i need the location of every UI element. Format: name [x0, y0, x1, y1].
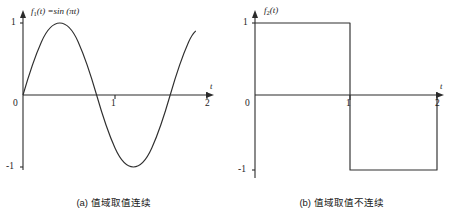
panel-a-f-subscript: 1	[34, 10, 37, 17]
panel-b-discontinuous: f2(t) 1 -1 0 1 2 t (b) 值域取值不连续	[228, 0, 455, 212]
panel-a-xlabel-2: 2	[205, 99, 210, 109]
panel-a-continuous: f1(t) =sin (πt) 1 -1 0 1 2 t (a) 值域取值连续	[0, 0, 227, 212]
panel-a-y-axis-arrow	[20, 10, 26, 18]
panel-b-origin-label: 0	[245, 99, 250, 109]
panel-b-xlabel-2: 2	[435, 99, 440, 109]
panel-b-plot	[228, 0, 455, 190]
figure-container: f1(t) =sin (πt) 1 -1 0 1 2 t (a) 值域取值连续 …	[0, 0, 455, 212]
panel-a-caption: (a) 值域取值连续	[0, 197, 227, 208]
panel-b-function-label: f2(t)	[264, 6, 278, 15]
panel-b-x-axis-variable: t	[440, 82, 442, 91]
panel-b-ylabel-neg1: -1	[238, 165, 246, 175]
panel-a-f-rest: (t) =sin (πt)	[37, 6, 80, 16]
panel-a-function-label: f1(t) =sin (πt)	[31, 7, 79, 16]
square-wave	[255, 23, 437, 170]
panel-b-f-rest: (t)	[270, 5, 279, 15]
panel-a-x-axis-variable: t	[210, 82, 212, 91]
panel-a-plot	[0, 0, 227, 190]
panel-a-origin-label: 0	[13, 99, 18, 109]
sine-curve-tail	[170, 31, 196, 95]
panel-b-y-axis-arrow	[252, 10, 258, 18]
panel-b-f-subscript: 2	[267, 9, 270, 16]
panel-a-xlabel-1: 1	[111, 99, 116, 109]
panel-a-ylabel-1: 1	[11, 18, 16, 28]
panel-b-ylabel-1: 1	[243, 18, 248, 28]
panel-a-ylabel-neg1: -1	[6, 162, 14, 172]
panel-b-caption: (b) 值域取值不连续	[228, 197, 455, 208]
panel-b-xlabel-1: 1	[346, 99, 351, 109]
